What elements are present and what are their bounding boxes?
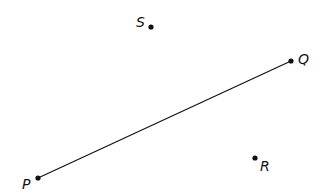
point-p-dot [35,175,40,180]
point-r-label: R [260,158,270,174]
point-s-dot [148,24,153,29]
point-r-dot [252,155,257,160]
point-q: Q [288,51,309,67]
point-s: S [136,14,154,30]
point-q-label: Q [298,51,309,67]
point-p-label: P [22,176,31,192]
geometry-diagram: P Q R S [0,0,327,195]
point-s-label: S [136,14,145,30]
point-r: R [252,155,269,174]
point-p: P [22,175,41,192]
segment-pq [38,61,291,178]
point-q-dot [288,58,293,63]
